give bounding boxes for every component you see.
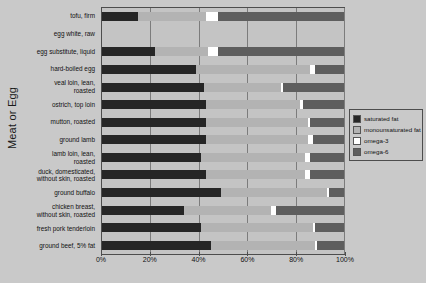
category-label: fresh pork tenderloin — [14, 220, 98, 238]
x-tick-label: 0% — [96, 256, 106, 263]
bar-segment[interactable] — [204, 83, 281, 92]
x-tick-label: 100% — [336, 256, 354, 263]
bar-segment[interactable] — [206, 12, 218, 21]
stacked-bar[interactable] — [102, 30, 344, 39]
bar-segment[interactable] — [211, 241, 315, 250]
stacked-bar[interactable] — [102, 170, 344, 179]
bar-segment[interactable] — [221, 188, 327, 197]
legend-item[interactable]: omega-6 — [353, 146, 419, 157]
bar-segment[interactable] — [201, 153, 305, 162]
x-tick-label: 60% — [240, 256, 254, 263]
category-label: egg white, raw — [14, 25, 98, 43]
plot-area — [101, 7, 345, 255]
bar-segment[interactable] — [155, 47, 208, 56]
bar-row[interactable] — [102, 113, 344, 131]
x-tick-label: 40% — [192, 256, 206, 263]
x-tick-label: 80% — [289, 256, 303, 263]
bar-segment[interactable] — [303, 100, 344, 109]
bar-segment[interactable] — [315, 65, 344, 74]
stacked-bar[interactable] — [102, 47, 344, 56]
bar-segment[interactable] — [138, 12, 206, 21]
legend-label: saturated fat — [364, 115, 398, 122]
bar-segment[interactable] — [184, 206, 271, 215]
stacked-bar[interactable] — [102, 241, 344, 250]
bar-row[interactable] — [102, 201, 344, 219]
bar-segment[interactable] — [218, 47, 344, 56]
bar-row[interactable] — [102, 166, 344, 184]
bar-segment[interactable] — [102, 223, 201, 232]
stacked-bar[interactable] — [102, 135, 344, 144]
category-label: ostrich, top loin — [14, 96, 98, 114]
stacked-bar[interactable] — [102, 100, 344, 109]
category-axis-labels: tofu, firmegg white, rawegg substitute, … — [14, 7, 98, 255]
legend-label: omega-3 — [364, 137, 388, 144]
bar-segment[interactable] — [201, 223, 312, 232]
bar-segment[interactable] — [206, 100, 300, 109]
gridline — [344, 8, 345, 254]
stacked-bar[interactable] — [102, 153, 344, 162]
category-label: chicken breast, without skin, roasted — [14, 202, 98, 220]
bar-segment[interactable] — [102, 83, 204, 92]
bar-row[interactable] — [102, 131, 344, 149]
bar-segment[interactable] — [206, 170, 305, 179]
legend-swatch — [353, 148, 361, 156]
bar-segment[interactable] — [102, 47, 155, 56]
category-label: ground buffalo — [14, 184, 98, 202]
legend-item[interactable]: saturated fat — [353, 113, 419, 124]
category-label: ground lamb — [14, 131, 98, 149]
bar-segment[interactable] — [102, 135, 206, 144]
bar-row[interactable] — [102, 219, 344, 237]
bar-row[interactable] — [102, 43, 344, 61]
bar-segment[interactable] — [276, 206, 344, 215]
bar-segment[interactable] — [310, 170, 344, 179]
stacked-bar-chart: Meat or Egg tofu, firmegg white, rawegg … — [0, 0, 426, 283]
bar-segment[interactable] — [329, 188, 344, 197]
bar-segment[interactable] — [283, 83, 344, 92]
bar-segment[interactable] — [310, 118, 344, 127]
bar-segment[interactable] — [102, 188, 221, 197]
stacked-bar[interactable] — [102, 83, 344, 92]
bar-segment[interactable] — [315, 223, 344, 232]
bar-segment[interactable] — [317, 241, 344, 250]
category-label: tofu, firm — [14, 7, 98, 25]
bar-segment[interactable] — [218, 12, 344, 21]
bar-segment[interactable] — [196, 65, 310, 74]
x-axis-ticks: 0%20%40%60%80%100% — [101, 256, 345, 270]
bar-row[interactable] — [102, 26, 344, 44]
bar-segment[interactable] — [102, 100, 206, 109]
bar-segment[interactable] — [208, 47, 218, 56]
bar-row[interactable] — [102, 8, 344, 26]
bar-row[interactable] — [102, 237, 344, 255]
category-label: duck, domesticated, without skin, roaste… — [14, 166, 98, 184]
bar-segment[interactable] — [206, 118, 308, 127]
bar-segment[interactable] — [102, 12, 138, 21]
x-tick-label: 20% — [143, 256, 157, 263]
bar-row[interactable] — [102, 96, 344, 114]
stacked-bar[interactable] — [102, 206, 344, 215]
stacked-bar[interactable] — [102, 188, 344, 197]
bar-row[interactable] — [102, 78, 344, 96]
bar-segment[interactable] — [102, 65, 196, 74]
bar-segment[interactable] — [102, 118, 206, 127]
legend-item[interactable]: omega-3 — [353, 135, 419, 146]
stacked-bar[interactable] — [102, 12, 344, 21]
legend-item[interactable]: monounsaturated fat — [353, 124, 419, 135]
bar-segment[interactable] — [102, 170, 206, 179]
bar-segment[interactable] — [102, 206, 184, 215]
bar-segment[interactable] — [206, 135, 308, 144]
category-label: lamb loin, lean, roasted — [14, 149, 98, 167]
legend-swatch — [353, 126, 361, 134]
bar-segment[interactable] — [313, 135, 344, 144]
bar-row[interactable] — [102, 184, 344, 202]
legend: saturated fatmonounsaturated fatomega-3o… — [349, 109, 423, 161]
bar-segment[interactable] — [310, 153, 344, 162]
bar-segment[interactable] — [102, 241, 211, 250]
stacked-bar[interactable] — [102, 118, 344, 127]
stacked-bar[interactable] — [102, 65, 344, 74]
bar-segment[interactable] — [102, 153, 201, 162]
stacked-bar[interactable] — [102, 223, 344, 232]
category-label: hard-boiled egg — [14, 60, 98, 78]
bar-row[interactable] — [102, 149, 344, 167]
legend-label: omega-6 — [364, 148, 388, 155]
bar-row[interactable] — [102, 61, 344, 79]
